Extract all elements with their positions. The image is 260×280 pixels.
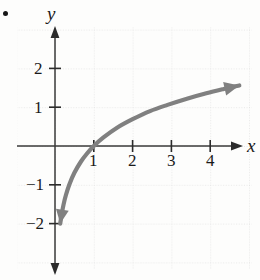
graph-figure: y x 1 2 3 4 2 1 −1 −2 [0,0,260,280]
y-tick-label-1: 1 [34,99,43,116]
y-tick-label-neg-1: −1 [26,176,44,193]
grid-lines [17,27,252,269]
y-tick-label-2: 2 [34,60,43,77]
x-tick-label-1: 1 [89,152,98,169]
x-axis-label: x [247,136,255,155]
y-axis-label: y [47,4,55,23]
x-tick-label-2: 2 [128,152,137,169]
x-tick-label-3: 3 [167,152,176,169]
x-tick-label-4: 4 [206,152,215,169]
coordinate-plane-svg [0,0,260,280]
y-tick-label-neg-2: −2 [26,215,44,232]
